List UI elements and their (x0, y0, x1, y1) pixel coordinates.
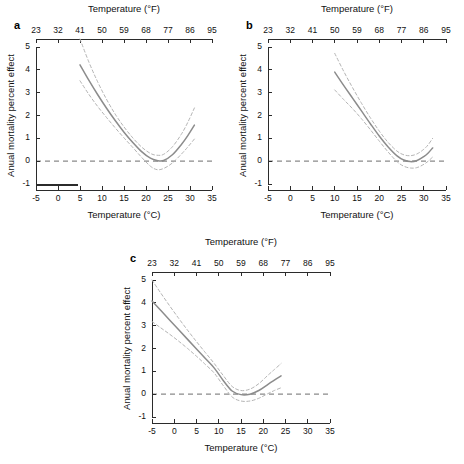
top-tick-label: 95 (318, 259, 342, 268)
plot-canvas-c (0, 0, 464, 464)
bottom-tick-label: 15 (229, 427, 253, 436)
top-tick-label: 50 (207, 259, 231, 268)
y-tick-label: 3 (128, 321, 146, 330)
bottom-tick-label: -5 (140, 427, 164, 436)
y-tick-label: 5 (128, 275, 146, 284)
bottom-tick-label: 25 (274, 427, 298, 436)
y-tick-label: 4 (128, 298, 146, 307)
y-tick-label: 2 (128, 344, 146, 353)
bottom-tick-label: 5 (185, 427, 209, 436)
bottom-tick-label: 35 (318, 427, 342, 436)
bottom-tick-label: 20 (251, 427, 275, 436)
bottom-tick-label: 10 (207, 427, 231, 436)
top-tick-label: 77 (274, 259, 298, 268)
top-tick-label: 32 (162, 259, 186, 268)
top-tick-label: 86 (296, 259, 320, 268)
top-tick-label: 68 (251, 259, 275, 268)
bottom-axis-title-c: Temperature (°C) (152, 443, 330, 453)
top-tick-label: 41 (185, 259, 209, 268)
y-tick-label: 1 (128, 366, 146, 375)
bottom-tick-label: 30 (296, 427, 320, 436)
y-tick-label: -1 (128, 412, 146, 421)
panel-c: cTemperature (°F)Temperature (°C)Anual m… (0, 0, 464, 464)
panel-label-c: c (130, 253, 136, 264)
top-tick-label: 23 (140, 259, 164, 268)
bottom-tick-label: 0 (162, 427, 186, 436)
top-axis-title-c: Temperature (°F) (152, 237, 330, 247)
y-tick-label: 0 (128, 389, 146, 398)
top-tick-label: 59 (229, 259, 253, 268)
